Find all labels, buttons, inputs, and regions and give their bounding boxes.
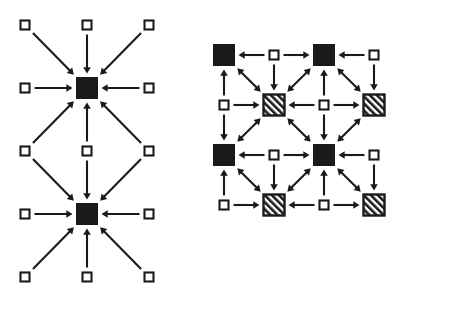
edge-R03-to-R02: [220, 170, 228, 196]
edge-R23-to-R33: [334, 201, 360, 209]
node-small-open: [145, 147, 154, 156]
edge-R21-to-R31: [334, 101, 360, 109]
node-small-open: [145, 21, 154, 30]
arrowhead: [220, 70, 228, 76]
edge-R02-to-R13: [237, 168, 260, 191]
edge-R10-to-R00: [239, 51, 265, 59]
edge-R20-to-R31: [337, 68, 360, 91]
node-filled: [77, 204, 98, 225]
node-small-open: [320, 101, 329, 110]
arrowhead: [83, 193, 91, 199]
edge-R30-to-R20: [339, 51, 365, 59]
edge-R22-to-R31: [337, 118, 360, 141]
node-filled: [77, 78, 98, 99]
node-filled: [214, 45, 235, 66]
arrowhead: [270, 184, 278, 190]
node-small-open: [220, 101, 229, 110]
edge-L12-to-L11: [83, 103, 91, 142]
edge-L00-to-L11: [33, 33, 74, 75]
edge-L12-to-L13: [83, 161, 91, 200]
edge-L21-to-L11: [102, 84, 140, 92]
edge-R22-to-R11: [287, 118, 310, 141]
edge-R30-to-R31: [370, 65, 378, 91]
arrowhead: [220, 170, 228, 176]
arrowhead: [220, 134, 228, 140]
edge-L23-to-L13: [102, 210, 140, 218]
edge-R22-to-R13: [287, 168, 310, 191]
arrowhead: [270, 84, 278, 90]
arrowhead: [253, 101, 259, 109]
edge-R01-to-R00: [220, 70, 228, 96]
edge-R23-to-R13: [289, 201, 315, 209]
edge-L22-to-L13: [100, 159, 141, 201]
node-hatched: [364, 95, 385, 116]
node-small-open: [270, 51, 279, 60]
figure-root: [0, 0, 450, 315]
arrowhead: [83, 67, 91, 73]
node-hatched: [264, 95, 285, 116]
node-small-open: [21, 84, 30, 93]
edge-L01-to-L11: [35, 84, 73, 92]
left-diagram-panel: [0, 0, 195, 315]
edge-R32-to-R22: [339, 151, 365, 159]
node-filled: [314, 145, 335, 166]
node-small-open: [145, 273, 154, 282]
node-small-open: [270, 151, 279, 160]
edge-R32-to-R33: [370, 165, 378, 191]
node-filled: [214, 145, 235, 166]
edge-R22-to-R33: [337, 168, 360, 191]
arrowhead: [239, 51, 245, 59]
arrowhead: [239, 151, 245, 159]
edge-R10-to-R20: [284, 51, 310, 59]
arrowhead: [320, 70, 328, 76]
right-diagram-panel: [195, 0, 450, 315]
node-small-open: [21, 210, 30, 219]
edge-R01-to-R02: [220, 115, 228, 141]
arrowhead: [320, 134, 328, 140]
edge-L10-to-L11: [83, 35, 91, 74]
arrowhead: [320, 170, 328, 176]
arrowhead: [339, 151, 345, 159]
arrowhead: [289, 201, 295, 209]
node-small-open: [21, 21, 30, 30]
arrowhead: [289, 101, 295, 109]
edge-L04-to-L13: [33, 227, 74, 269]
edge-R00-to-R11: [237, 68, 260, 91]
node-small-open: [83, 273, 92, 282]
edge-R10-to-R11: [270, 65, 278, 91]
node-small-open: [145, 210, 154, 219]
edge-L02-to-L11: [33, 101, 74, 143]
node-small-open: [220, 201, 229, 210]
node-small-open: [145, 84, 154, 93]
edge-L24-to-L13: [100, 227, 141, 269]
node-hatched: [264, 195, 285, 216]
arrowhead: [339, 51, 345, 59]
arrowhead: [66, 84, 72, 92]
node-filled: [314, 45, 335, 66]
edge-L02-to-L13: [33, 159, 74, 201]
node-hatched: [364, 195, 385, 216]
edge-R12-to-R13: [270, 165, 278, 191]
edge-R21-to-R22: [320, 115, 328, 141]
arrowhead: [353, 201, 359, 209]
edge-R23-to-R22: [320, 170, 328, 196]
arrowhead: [66, 210, 72, 218]
edge-layer: [220, 51, 378, 209]
arrowhead: [370, 84, 378, 90]
arrowhead: [370, 184, 378, 190]
edge-R20-to-R11: [287, 68, 310, 91]
edge-L14-to-L13: [83, 229, 91, 268]
node-small-open: [370, 151, 379, 160]
node-small-open: [21, 147, 30, 156]
node-small-open: [21, 273, 30, 282]
node-small-open: [370, 51, 379, 60]
edge-R03-to-R13: [234, 201, 260, 209]
arrowhead: [303, 151, 309, 159]
edge-R01-to-R11: [234, 101, 260, 109]
arrowhead: [353, 101, 359, 109]
node-small-open: [83, 147, 92, 156]
node-small-open: [320, 201, 329, 210]
edge-R12-to-R02: [239, 151, 265, 159]
edge-L22-to-L11: [100, 101, 141, 143]
arrowhead: [83, 103, 91, 109]
